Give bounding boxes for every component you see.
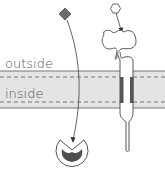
hexagon-arrow — [116, 13, 121, 30]
diamond-ligand-icon — [59, 8, 71, 20]
arrowhead-icon — [71, 137, 76, 143]
receptor-transmembrane-segment-left — [120, 77, 124, 103]
receptor-transmembrane-segment-right — [130, 77, 134, 103]
outside-label: outside — [5, 57, 53, 70]
inside-label: inside — [5, 87, 44, 100]
hexagon-ligand-icon — [111, 4, 121, 13]
